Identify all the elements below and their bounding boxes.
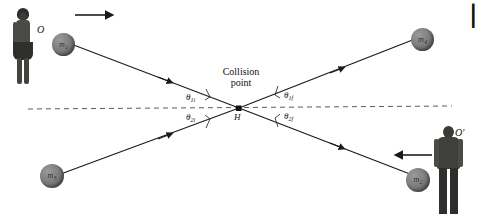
arrowhead-outgoing-lower — [330, 143, 344, 149]
mass-m2-label: m2 — [414, 175, 423, 185]
observer-left-leg-a — [17, 58, 22, 84]
mass-m3-label: m3 — [48, 171, 57, 181]
angle-label-theta-2i: θ2i — [186, 112, 195, 123]
trajectory-m1-outgoing — [239, 108, 410, 174]
mass-m1-label: m1 — [59, 40, 68, 50]
observer-left-torso — [16, 20, 30, 44]
angle-tick-2f — [275, 114, 280, 127]
observer-left-skirt — [13, 42, 33, 60]
observer-right-label: O′ — [455, 127, 464, 138]
mass-m3: m3 — [40, 164, 64, 188]
observer-right-arm-right — [458, 139, 463, 167]
observer-right-leg-b — [450, 168, 458, 214]
edge-fragment-line2: ▌ — [472, 12, 477, 20]
angle-label-theta-2f: θ2f — [284, 111, 293, 122]
angle-tick-2i — [205, 115, 210, 128]
diagram-canvas: m1 m4 m3 m2 Collision point H O O′ θ1i θ… — [0, 0, 481, 218]
mass-m4-label: m4 — [418, 35, 427, 45]
observer-right-arm-left — [434, 139, 439, 167]
observer-left-arm — [13, 22, 17, 44]
angle-tick-1i — [205, 89, 210, 100]
observer-left-label: O — [37, 24, 44, 35]
collision-point-label-line2: point — [200, 77, 282, 88]
mass-m2: m2 — [406, 168, 430, 192]
mass-m1: m1 — [52, 33, 75, 56]
collision-point-label-line1: Collision — [200, 66, 282, 77]
collision-point-label: Collision point — [200, 66, 282, 88]
observer-right-figure — [434, 126, 466, 216]
collision-point-marker — [236, 106, 242, 112]
angle-label-theta-1i: θ1i — [186, 92, 195, 103]
arrowhead-incoming-lower — [158, 134, 172, 140]
observer-right-torso — [437, 137, 460, 169]
arrowhead-outgoing-upper — [330, 68, 344, 74]
mass-m4: m4 — [411, 28, 434, 51]
cropped-edge-text-fragment: ▌ ▌ ▌ — [472, 4, 477, 28]
arrowhead-incoming-upper — [158, 77, 172, 83]
observer-left-figure — [8, 8, 38, 86]
edge-fragment-line1: ▌ — [472, 4, 477, 12]
trajectory-m3-incoming — [58, 108, 239, 175]
observer-right-leg-a — [439, 168, 447, 214]
collision-vertex-label: H — [234, 112, 241, 122]
angle-label-theta-1f: θ1f — [284, 90, 293, 101]
observer-left-leg-b — [24, 58, 29, 84]
edge-fragment-line3: ▌ — [472, 20, 477, 28]
